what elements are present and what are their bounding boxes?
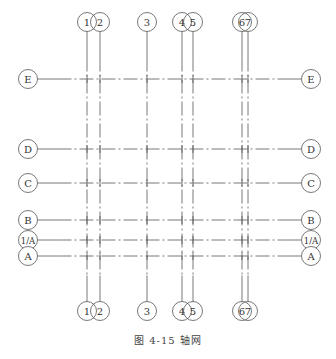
axis-label-D: D <box>24 144 32 155</box>
axis-label-1: 1 <box>84 306 90 317</box>
axis-label-D: D <box>307 144 315 155</box>
axis-label-5: 5 <box>190 306 196 317</box>
figure-caption: 图 4-15 轴网 <box>0 332 336 347</box>
axis-label-E: E <box>24 74 31 85</box>
axis-label-3: 3 <box>144 17 150 28</box>
axis-grid-diagram: 11223344556677EEDDCCBB1/A1/AAA <box>0 0 336 359</box>
axis-label-A: A <box>306 251 315 262</box>
axis-label-2: 2 <box>97 306 103 317</box>
axis-label-1: 1 <box>84 17 90 28</box>
axis-label-3: 3 <box>144 306 150 317</box>
axis-label-5: 5 <box>190 17 196 28</box>
axis-label-2: 2 <box>97 17 103 28</box>
axis-label-C: C <box>307 178 315 189</box>
axis-label-A: A <box>23 251 32 262</box>
axis-label-C: C <box>24 178 32 189</box>
axis-label-E: E <box>307 74 314 85</box>
axis-label-B: B <box>307 215 314 226</box>
axis-label-1/A: 1/A <box>304 236 319 246</box>
axis-label-B: B <box>24 215 31 226</box>
axis-label-7: 7 <box>245 17 251 28</box>
axis-label-7: 7 <box>245 306 251 317</box>
axis-label-1/A: 1/A <box>21 236 36 246</box>
